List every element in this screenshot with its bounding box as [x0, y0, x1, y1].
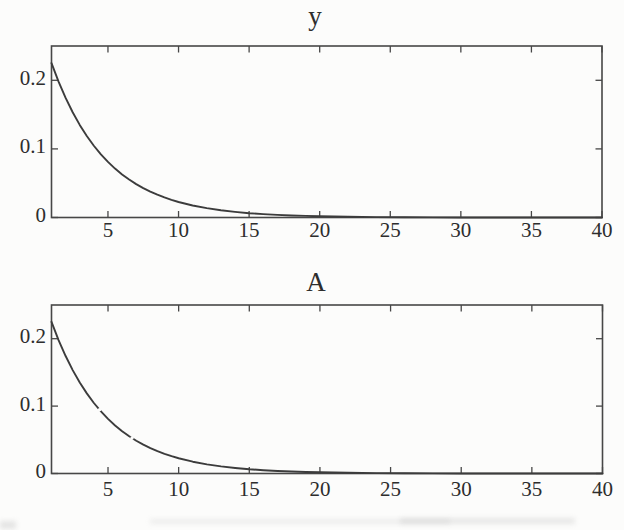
- curve-y: [52, 63, 603, 217]
- x-tick-label: 10: [157, 219, 201, 241]
- x-tick-label: 10: [157, 478, 201, 500]
- x-tick-label: 20: [298, 219, 342, 241]
- x-tick-label: 5: [86, 478, 130, 500]
- x-tick-label: 25: [368, 219, 412, 241]
- x-tick-label: 20: [298, 478, 342, 500]
- x-tick-label: 30: [439, 478, 483, 500]
- x-tick-label: 5: [86, 219, 130, 241]
- x-tick-label: 15: [227, 219, 271, 241]
- axes-frame: [52, 46, 603, 218]
- x-tick-label: 40: [580, 219, 624, 241]
- plot-title-y: y: [308, 3, 322, 30]
- scan-artifact: [0, 521, 16, 529]
- x-tick-label: 40: [581, 478, 624, 500]
- x-tick-label: 25: [369, 478, 413, 500]
- plots-svg: [0, 0, 624, 530]
- scan-artifact: [400, 518, 575, 524]
- x-tick-label: 35: [509, 219, 553, 241]
- curve-A: [52, 322, 603, 474]
- curve-break: [130, 436, 133, 439]
- figure-canvas: y A 51015202530354000.10.251015202530354…: [0, 0, 624, 530]
- x-tick-label: 15: [227, 478, 271, 500]
- x-tick-label: 35: [510, 478, 554, 500]
- y-tick-label: 0: [0, 204, 46, 226]
- axes-frame: [52, 305, 603, 474]
- x-tick-label: 30: [439, 219, 483, 241]
- y-tick-label: 0.1: [0, 393, 46, 415]
- curve-break: [98, 408, 101, 411]
- y-tick-label: 0.2: [0, 325, 46, 347]
- y-tick-label: 0.2: [0, 67, 46, 89]
- y-tick-label: 0: [0, 460, 46, 482]
- y-tick-label: 0.1: [0, 135, 46, 157]
- plot-title-a: A: [306, 269, 326, 296]
